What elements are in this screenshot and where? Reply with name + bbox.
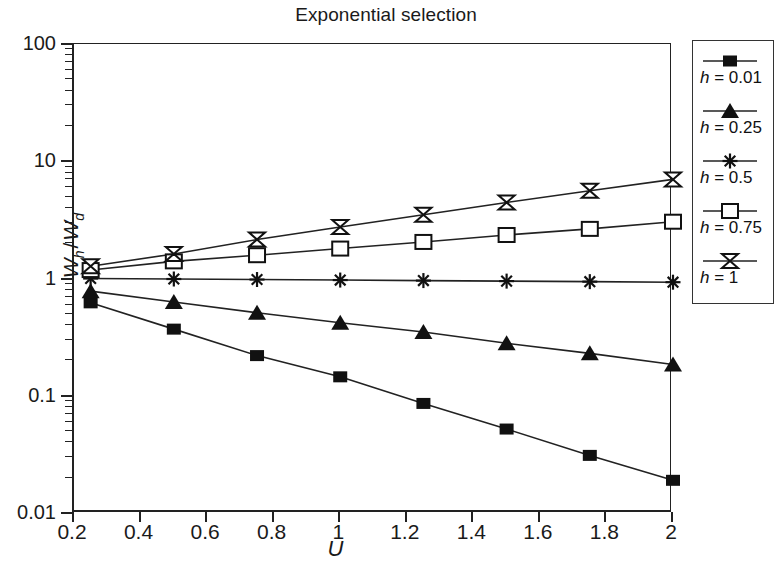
y-axis-minor-tick	[65, 400, 72, 401]
data-point-marker	[666, 475, 680, 486]
plot-canvas	[74, 44, 673, 513]
data-point-marker	[416, 273, 431, 288]
legend-label: h = 1	[700, 268, 738, 288]
legend-entry[interactable]: h = 0.5	[693, 148, 773, 198]
y-axis-minor-tick	[65, 90, 72, 91]
data-point-marker	[166, 272, 181, 287]
legend-label: h = 0.5	[700, 168, 752, 188]
data-point-marker	[333, 273, 348, 288]
x-axis-title: U	[0, 536, 671, 562]
chart-title: Exponential selection	[236, 4, 536, 26]
y-axis-tick-label: 0.1	[0, 383, 56, 406]
data-point-marker	[167, 324, 181, 335]
chart-figure: Exponential selection 1001010.10.01 0.20…	[0, 0, 776, 572]
y-axis-minor-tick	[65, 69, 72, 70]
data-point-marker	[582, 222, 598, 236]
y-axis-minor-tick	[65, 104, 72, 105]
y-axis-tick	[61, 395, 72, 397]
data-point-marker	[332, 242, 348, 256]
y-axis-minor-tick	[65, 430, 72, 431]
data-point-marker	[583, 450, 597, 461]
legend-entry[interactable]: h = 0.01	[693, 48, 773, 98]
y-axis-minor-tick	[65, 359, 72, 360]
data-point-marker	[249, 248, 265, 262]
data-point-marker	[582, 274, 597, 289]
plot-area	[72, 43, 671, 512]
y-axis-minor-tick	[65, 421, 72, 422]
data-point-marker	[500, 424, 514, 435]
y-axis-minor-tick	[65, 48, 72, 49]
legend-entry[interactable]: h = 0.25	[693, 98, 773, 148]
y-axis-tick	[61, 43, 72, 45]
data-point-marker	[415, 208, 431, 222]
data-point-marker	[250, 350, 264, 361]
data-point-marker	[416, 398, 430, 409]
y-axis-title: Wh/Wd	[59, 171, 86, 321]
y-axis-tick-label: 1	[0, 266, 56, 289]
data-point-marker	[499, 274, 514, 289]
data-point-marker	[332, 220, 348, 234]
y-axis-minor-tick	[65, 125, 72, 126]
y-axis-tick	[61, 512, 72, 514]
chart-legend: h = 0.01h = 0.25h = 0.5h = 0.75h = 1	[692, 40, 774, 304]
data-point-marker	[415, 235, 431, 249]
open-square-marker	[722, 204, 738, 218]
y-axis-tick-label: 100	[0, 32, 56, 55]
legend-label: h = 0.25	[700, 118, 762, 138]
y-axis-minor-tick	[65, 406, 72, 407]
data-point-marker	[249, 233, 265, 247]
data-point-marker	[499, 228, 515, 242]
data-point-marker	[333, 371, 347, 382]
y-axis-minor-tick	[65, 166, 72, 167]
y-axis-tick	[61, 160, 72, 162]
y-axis-minor-tick	[65, 477, 72, 478]
y-axis-minor-tick	[65, 441, 72, 442]
y-axis-minor-tick	[65, 324, 72, 325]
y-axis-minor-tick	[65, 413, 72, 414]
legend-entry[interactable]: h = 1	[693, 248, 773, 298]
data-point-marker	[666, 275, 681, 290]
legend-label: h = 0.75	[700, 218, 762, 238]
y-axis-minor-tick	[65, 339, 72, 340]
filled-square-marker	[723, 56, 737, 67]
legend-label: h = 0.01	[700, 68, 762, 88]
y-axis-minor-tick	[65, 54, 72, 55]
data-point-marker	[250, 272, 265, 287]
legend-entry[interactable]: h = 0.75	[693, 198, 773, 248]
y-axis-tick-label: 0.01	[0, 501, 56, 524]
y-axis-tick-label: 10	[0, 149, 56, 172]
y-axis-minor-tick	[65, 61, 72, 62]
y-axis-minor-tick	[65, 456, 72, 457]
y-axis-minor-tick	[65, 78, 72, 79]
data-point-marker	[665, 215, 681, 229]
asterisk-marker	[723, 154, 738, 169]
